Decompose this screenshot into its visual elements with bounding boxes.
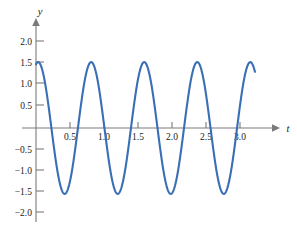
x-tick-label: 2.0: [166, 132, 178, 142]
y-tick-label: 2.0: [20, 37, 32, 47]
x-tick-label: 0.5: [64, 132, 76, 142]
y-tick-label: −1.5: [15, 187, 32, 197]
oscillation-plot-svg: 0.5 1.0 1.5 2.0 2.5 3.0 2.0 1.5 1.0 0.5 …: [0, 0, 297, 234]
x-axis-label: t: [287, 123, 291, 134]
y-tick-label: 1.5: [20, 58, 32, 68]
x-tick-labels: 0.5 1.0 1.5 2.0 2.5 3.0: [64, 132, 246, 142]
y-tick-marks: [36, 41, 44, 212]
x-axis: [22, 124, 280, 132]
x-tick-label: 1.5: [132, 132, 144, 142]
y-tick-label: −2.0: [15, 208, 32, 218]
y-tick-labels: 2.0 1.5 1.0 0.5 −0.5 −1.0 −1.5 −2.0: [15, 37, 32, 218]
y-tick-label: 0.5: [20, 101, 32, 111]
y-tick-label: −0.5: [15, 145, 32, 155]
chart-figure: 0.5 1.0 1.5 2.0 2.5 3.0 2.0 1.5 1.0 0.5 …: [0, 0, 297, 234]
x-tick-marks: [70, 122, 240, 128]
y-tick-label: −1.0: [15, 166, 32, 176]
y-tick-label: 1.0: [20, 79, 32, 89]
y-axis-label: y: [37, 6, 43, 17]
